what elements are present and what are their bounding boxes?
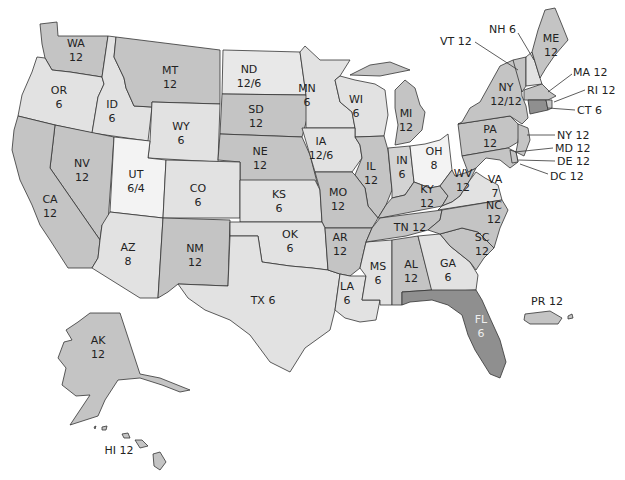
label-la-abbr: LA [340,280,354,293]
label-nc-value: 12 [487,213,501,226]
callout-ma: MA 12 [573,66,608,79]
label-nv-value: 12 [75,171,89,184]
leader-de [518,160,555,161]
state-ct[interactable] [528,100,548,114]
label-me-value: 12 [544,46,558,59]
label-al-abbr: AL [404,258,419,271]
label-mi-value: 12 [399,121,413,134]
territory-pr[interactable] [524,311,562,324]
state-ma[interactable] [524,84,556,100]
leader-nh [518,33,534,60]
label-fl-abbr: FL [475,313,488,326]
label-ut-value: 6/4 [127,182,145,195]
label-ut-abbr: UT [129,168,144,181]
label-nd-value: 12/6 [237,77,262,90]
label-nd-abbr: ND [241,63,258,76]
label-ga-value: 6 [445,271,452,284]
label-or-value: 6 [56,98,63,111]
label-mi-abbr: MI [400,107,413,120]
label-ar-abbr: AR [332,231,348,244]
callout-nj: NY 12 [557,129,589,142]
label-il-value: 12 [364,174,378,187]
label-ar-value: 12 [333,245,347,258]
label-ky-value: 12 [420,197,434,210]
label-mn-abbr: MN [298,82,316,95]
state-nd[interactable] [222,50,306,95]
leader-dc [520,164,548,174]
state-ak[interactable] [58,313,190,425]
label-in-abbr: IN [396,154,407,167]
label-oh-value: 8 [431,159,438,172]
label-va-abbr: VA [488,173,503,186]
us-map: WA 12 OR 6 ID 6 MT 12 WY 6 ND 12/6 SD 12… [0,0,625,480]
leader-vt [475,42,518,70]
label-sd-abbr: SD [248,103,263,116]
callout-tx: TX 6 [250,294,276,307]
label-wa-value: 12 [69,51,83,64]
callout-ct: CT 6 [577,104,602,117]
label-al-value: 12 [404,272,418,285]
label-sc-value: 12 [475,245,489,258]
label-ga-abbr: GA [440,257,457,270]
label-ny-value: 12/12 [490,95,522,108]
label-wy-value: 6 [178,134,185,147]
label-wi-value: 6 [353,107,360,120]
label-in-value: 6 [399,168,406,181]
leader-ma [548,74,572,92]
label-ok-abbr: OK [282,228,299,241]
label-ia-abbr: IA [316,135,327,148]
callout-md: MD 12 [555,142,590,155]
label-co-value: 6 [195,196,202,209]
label-ms-abbr: MS [370,260,386,273]
label-pa-value: 12 [483,137,497,150]
label-ms-value: 6 [375,274,382,287]
label-wv-value: 12 [456,181,470,194]
label-mo-value: 12 [331,200,345,213]
state-ks[interactable] [240,180,322,222]
label-ky-abbr: KY [420,183,434,196]
label-la-value: 6 [344,294,351,307]
label-ca-value: 12 [43,207,57,220]
label-nc-abbr: NC [486,199,502,212]
label-ca-abbr: CA [42,193,58,206]
label-fl-value: 6 [478,327,485,340]
callout-vt: VT 12 [440,35,472,48]
label-pa-abbr: PA [483,123,497,136]
label-nm-value: 12 [188,256,202,269]
callout-tn: TN 12 [393,221,426,234]
label-nm-abbr: NM [186,242,204,255]
callout-pr: PR 12 [531,295,563,308]
label-nv-abbr: NV [74,157,90,170]
label-wv-abbr: WV [454,167,473,180]
label-mn-value: 6 [304,96,311,109]
callout-de: DE 12 [557,155,590,168]
callout-nh: NH 6 [489,23,516,36]
label-ne-value: 12 [253,159,267,172]
callout-ri: RI 12 [587,84,615,97]
label-az-value: 8 [125,255,132,268]
label-mt-abbr: MT [162,64,178,77]
label-ks-value: 6 [276,202,283,215]
label-sd-value: 12 [249,117,263,130]
label-id-abbr: ID [106,98,118,111]
label-id-value: 6 [109,112,116,125]
label-co-abbr: CO [190,182,207,195]
label-wy-abbr: WY [172,120,190,133]
state-sd[interactable] [220,94,310,137]
label-az-abbr: AZ [120,241,136,254]
label-ne-abbr: NE [252,145,267,158]
label-me-abbr: ME [543,32,559,45]
state-fl[interactable] [402,290,506,378]
label-oh-abbr: OH [426,145,443,158]
label-ok-value: 6 [287,242,294,255]
callout-hi: HI 12 [104,444,133,457]
territory-pr-island [568,314,573,319]
label-il-abbr: IL [366,160,376,173]
label-mo-abbr: MO [329,186,347,199]
label-ks-abbr: KS [272,188,286,201]
label-wa-abbr: WA [67,37,85,50]
label-wi-abbr: WI [349,93,363,106]
label-or-abbr: OR [51,84,68,97]
label-ak-value: 12 [91,348,105,361]
leader-ri [554,90,585,102]
